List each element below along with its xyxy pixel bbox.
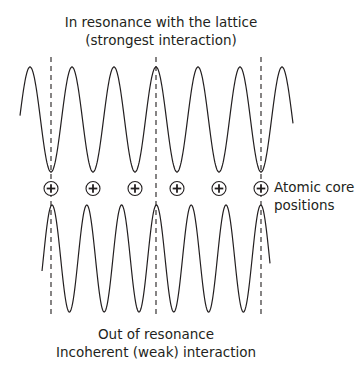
bottom-caption-line2: Incoherent (weak) interaction bbox=[0, 343, 312, 361]
atomic-core bbox=[254, 182, 268, 196]
bottom-caption: Out of resonance Incoherent (weak) inter… bbox=[0, 325, 312, 361]
atomic-core-label-line2: positions bbox=[274, 196, 354, 214]
atomic-core-label-line1: Atomic core bbox=[274, 178, 354, 196]
atomic-core-label: Atomic core positions bbox=[274, 178, 354, 214]
atomic-core bbox=[128, 182, 142, 196]
reference-lines bbox=[51, 57, 261, 318]
top-caption-line2: (strongest interaction) bbox=[0, 31, 322, 49]
atomic-core bbox=[86, 182, 100, 196]
atomic-core bbox=[212, 182, 226, 196]
top-caption: In resonance with the lattice (strongest… bbox=[0, 13, 322, 49]
atomic-core bbox=[44, 182, 58, 196]
top-caption-line1: In resonance with the lattice bbox=[0, 13, 322, 31]
bottom-caption-line1: Out of resonance bbox=[0, 325, 312, 343]
atomic-core bbox=[170, 182, 184, 196]
